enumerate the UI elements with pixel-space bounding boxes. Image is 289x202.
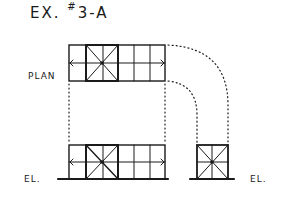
projection-lines xyxy=(69,45,228,143)
side-elevation xyxy=(190,145,234,179)
drawing-canvas xyxy=(0,0,289,202)
plan-view xyxy=(69,45,165,81)
front-elevation xyxy=(58,145,168,179)
